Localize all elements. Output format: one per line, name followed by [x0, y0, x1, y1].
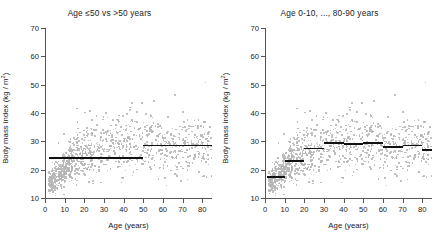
scatter-point: [371, 149, 373, 151]
scatter-point: [296, 184, 298, 186]
scatter-point: [70, 138, 72, 140]
scatter-point: [189, 162, 191, 164]
scatter-point: [361, 163, 363, 165]
scatter-point: [126, 139, 128, 141]
scatter-point: [110, 130, 112, 132]
scatter-point: [123, 161, 125, 163]
scatter-point: [422, 136, 424, 138]
scatter-point: [180, 180, 182, 182]
x-tick-mark: [363, 199, 364, 203]
scatter-point: [278, 142, 280, 144]
scatter-point: [358, 128, 360, 130]
scatter-point: [158, 150, 160, 152]
scatter-point: [93, 153, 95, 155]
scatter-point: [278, 157, 280, 159]
x-tick-label: 70: [398, 205, 406, 214]
scatter-point: [342, 145, 344, 147]
scatter-point: [48, 171, 50, 173]
x-tick-mark: [265, 199, 266, 203]
scatter-point: [335, 124, 337, 126]
scatter-point: [371, 130, 373, 132]
scatter-point: [96, 115, 98, 117]
scatter-point: [154, 160, 156, 162]
scatter-point: [389, 152, 391, 154]
scatter-point: [200, 125, 202, 127]
scatter-point: [387, 165, 389, 167]
x-axis-title-left: Age (years): [45, 221, 212, 230]
scatter-point: [401, 129, 403, 131]
scatter-point: [192, 162, 194, 164]
scatter-point: [286, 176, 288, 178]
scatter-point: [359, 156, 361, 158]
scatter-point: [385, 148, 387, 150]
scatter-point: [206, 176, 208, 178]
scatter-point: [134, 121, 136, 123]
scatter-point: [376, 152, 378, 154]
scatter-point: [342, 147, 344, 149]
scatter-point: [380, 158, 382, 160]
scatter-point: [91, 163, 93, 165]
scatter-point: [71, 180, 73, 182]
scatter-point: [164, 161, 166, 163]
scatter-point: [187, 179, 189, 181]
scatter-point: [167, 165, 169, 167]
scatter-point: [182, 157, 184, 159]
y-axis-title-left-sup: 2: [0, 75, 6, 78]
scatter-point: [407, 139, 409, 141]
scatter-point: [346, 139, 348, 141]
scatter-point: [330, 145, 332, 147]
scatter-point: [187, 142, 189, 144]
scatter-point: [110, 148, 112, 150]
scatter-point: [400, 166, 402, 168]
scatter-point: [61, 181, 63, 183]
scatter-point: [362, 136, 364, 138]
scatter-point: [274, 186, 276, 188]
scatter-point: [311, 119, 313, 121]
scatter-point: [289, 181, 291, 183]
scatter-point: [187, 139, 189, 141]
y-tick-label: 10: [251, 194, 259, 203]
scatter-point: [341, 164, 343, 166]
scatter-point: [60, 185, 62, 187]
scatter-point: [395, 142, 397, 144]
scatter-point: [329, 156, 331, 158]
scatter-point: [125, 125, 127, 127]
scatter-point: [167, 116, 169, 118]
scatter-point: [184, 126, 186, 128]
scatter-point: [96, 124, 98, 126]
scatter-point: [88, 166, 90, 168]
scatter-point: [368, 156, 370, 158]
scatter-point: [297, 121, 299, 123]
scatter-point: [77, 134, 79, 136]
scatter-point: [271, 170, 273, 172]
scatter-point: [121, 134, 123, 136]
scatter-point: [103, 151, 105, 153]
group-mean-line: [285, 160, 305, 162]
scatter-point: [110, 145, 112, 147]
scatter-point: [204, 133, 206, 135]
scatter-point: [185, 130, 187, 132]
x-tick-label: 30: [320, 205, 328, 214]
scatter-point: [275, 195, 277, 197]
scatter-point: [334, 153, 336, 155]
scatter-point: [285, 166, 287, 168]
scatter-point: [188, 165, 190, 167]
scatter-point: [87, 164, 89, 166]
scatter-point: [365, 113, 367, 115]
scatter-point: [335, 137, 337, 139]
scatter-point: [393, 135, 395, 137]
scatter-point: [425, 82, 427, 84]
scatter-point: [119, 140, 121, 142]
scatter-point: [132, 138, 134, 140]
scatter-point: [378, 137, 380, 139]
scatter-point: [386, 185, 388, 187]
scatter-point: [291, 167, 293, 169]
scatter-point: [303, 134, 305, 136]
y-tick-mark: [261, 141, 265, 142]
scatter-point: [381, 127, 383, 129]
scatter-point: [379, 133, 381, 135]
scatter-point: [296, 168, 298, 170]
scatter-point: [51, 170, 53, 172]
scatter-point: [174, 150, 176, 152]
scatter-point: [341, 134, 343, 136]
